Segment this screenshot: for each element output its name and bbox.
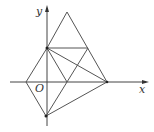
- point-x-right: [106, 81, 109, 84]
- segment-xleft-yupper: [26, 48, 47, 82]
- y-axis-arrow-icon: [45, 5, 49, 12]
- point-y-lower: [45, 115, 48, 118]
- x-axis-label: x: [139, 83, 146, 96]
- segment-apex-yupper: [47, 12, 67, 48]
- geometry-diagram: y x O: [0, 0, 154, 132]
- origin-label: O: [35, 82, 44, 95]
- segment-ylower-xright: [46, 82, 107, 116]
- figure-segments: [26, 12, 107, 116]
- point-y-upper: [46, 47, 49, 50]
- y-axis-label: y: [35, 5, 43, 18]
